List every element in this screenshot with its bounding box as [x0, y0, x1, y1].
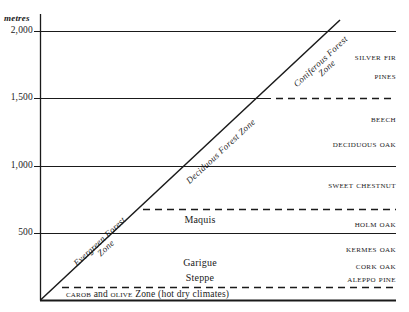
species-label-silver-fir: Silver Fir	[256, 53, 396, 63]
species-label-holm-oak: Holm oak	[256, 220, 396, 230]
bottom-zone-caption: Carob and Olive Zone (hot dry climates)	[66, 290, 229, 300]
vegetation-label-garigue: Garigue	[155, 258, 245, 268]
species-label-pines: Pines	[256, 72, 396, 82]
y-tick-label-500: 500	[0, 228, 33, 238]
y-axis-title: metres	[4, 14, 40, 23]
bottom-zone-carob: Carob	[66, 289, 91, 299]
bottom-zone-olive: Olive	[111, 289, 133, 299]
species-label-sweet-chestnut: Sweet Chestnut	[256, 181, 396, 191]
y-tick-label-1000: 1,000	[0, 161, 33, 171]
bottom-zone-tail: Zone (hot dry climates)	[133, 289, 230, 299]
species-label-aleppo-pine: Aleppo Pine	[256, 275, 396, 285]
species-label-deciduous-oak: Deciduous Oak	[256, 140, 396, 150]
species-label-kermes-oak: Kermes Oak	[256, 245, 396, 255]
bottom-zone-conjunction: and	[91, 289, 110, 299]
species-label-beech: Beech	[256, 115, 396, 125]
vegetation-zonation-diagram: metres 2,000 1,500 1,000 500 Evergreen F…	[0, 0, 409, 312]
vegetation-label-steppe: Steppe	[155, 273, 245, 283]
vegetation-label-maquis: Maquis	[155, 215, 245, 225]
y-tick-label-2000: 2,000	[0, 26, 33, 36]
y-tick-label-1500: 1,500	[0, 93, 33, 103]
species-label-cork-oak: Cork Oak	[256, 262, 396, 272]
